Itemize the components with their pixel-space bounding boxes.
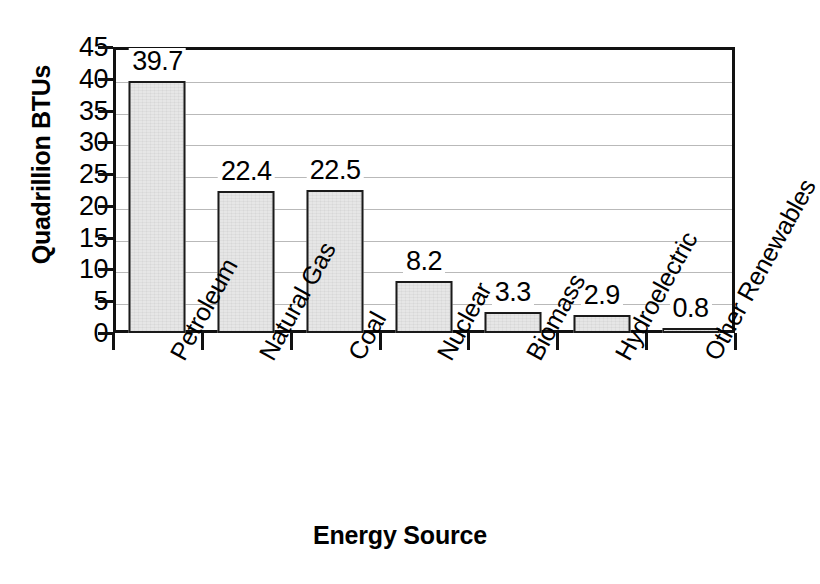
y-axis-title: Quadrillion BTUs <box>27 40 56 290</box>
y-axis-tick-mark <box>98 78 113 81</box>
y-axis-tick-mark <box>98 237 113 240</box>
bar[interactable] <box>395 281 452 333</box>
y-axis-tick-mark <box>98 173 113 176</box>
y-axis-tick-mark <box>98 268 113 271</box>
bar-value-label: 8.2 <box>403 248 445 275</box>
y-axis-tick-labels: 454035302520151050 <box>58 20 108 360</box>
y-axis-tick-mark <box>98 205 113 208</box>
bar-value-label: 0.8 <box>670 295 712 322</box>
x-axis-title: Energy Source <box>0 521 764 550</box>
y-axis-tick-mark <box>98 110 113 113</box>
bar-value-label: 3.3 <box>492 279 534 306</box>
bar-value-label: 39.7 <box>129 48 186 75</box>
y-axis-tick-mark <box>98 332 113 335</box>
x-axis-tick-mark <box>112 333 115 350</box>
bar-slot: 39.7 <box>113 47 202 333</box>
x-axis-title-text: Energy Source <box>277 521 487 549</box>
bar-value-label: 22.5 <box>307 157 364 184</box>
x-axis-tick-labels: PetroleumNatural GasCoalNuclearBiomassHy… <box>113 352 735 542</box>
y-axis-tick-mark <box>98 46 113 49</box>
bar[interactable] <box>129 81 186 333</box>
y-axis-tick-mark <box>98 141 113 144</box>
bar-value-label: 22.4 <box>218 158 275 185</box>
bar-slot: 8.2 <box>380 47 469 333</box>
y-axis-tick-mark <box>98 300 113 303</box>
